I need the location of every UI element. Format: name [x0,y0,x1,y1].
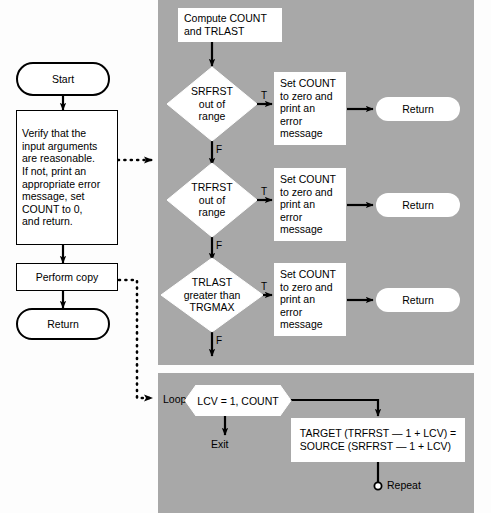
perform-copy-node[interactable]: Perform copy [16,263,118,291]
return-pellet-1[interactable]: Return [376,97,460,121]
loop-body-label: TARGET (TRFRST — 1 + LCV) = SOURCE (SRFR… [300,427,456,452]
dotted-perform-to-loop [119,280,152,398]
return-pellet-3[interactable]: Return [376,288,460,312]
flowchart-canvas: Start Verify that the input arguments ar… [0,0,491,513]
return-pellet-2[interactable]: Return [376,193,460,217]
decision-trlast-false-label: F [216,335,222,346]
exit-label: Exit [211,438,229,450]
decision-srfrst-false-label: F [216,144,222,155]
return-node[interactable]: Return [16,308,110,340]
perform-copy-label: Perform copy [36,271,98,284]
decision-srfrst[interactable]: SRFRST out of range [166,66,258,142]
loop-header-label: LCV = 1, COUNT [197,395,278,407]
decision-trlast-true-label: T [261,281,267,292]
decision-trfrst-label: TRFRST out of range [191,181,232,219]
repeat-label: Repeat [387,479,421,491]
decision-srfrst-true-label: T [261,90,267,101]
return-pellet-2-label: Return [402,199,434,211]
compute-node[interactable]: Compute COUNT and TRLAST [178,8,282,42]
start-node[interactable]: Start [16,62,110,96]
error-action-1[interactable]: Set COUNT to zero and print an error mes… [274,72,346,145]
compute-label: Compute COUNT and TRLAST [184,12,267,37]
decision-trfrst[interactable]: TRFRST out of range [166,162,258,238]
decision-trlast-label: TRLAST greater than TRGMAX [184,276,241,314]
return-pellet-1-label: Return [402,103,434,115]
decision-srfrst-label: SRFRST out of range [191,85,233,123]
loop-header-node[interactable]: LCV = 1, COUNT [184,385,292,416]
verify-label: Verify that the input arguments are reas… [22,127,100,228]
loop-body-node[interactable]: TARGET (TRFRST — 1 + LCV) = SOURCE (SRFR… [291,418,465,462]
return-label: Return [47,318,79,330]
loop-keyword-label: Loop [163,393,186,405]
decision-trfrst-true-label: T [261,186,267,197]
verify-node[interactable]: Verify that the input arguments are reas… [16,110,118,245]
decision-trlast[interactable]: TRLAST greater than TRGMAX [160,257,264,333]
return-pellet-3-label: Return [402,294,434,306]
error-action-3[interactable]: Set COUNT to zero and print an error mes… [274,263,346,336]
error-action-2[interactable]: Set COUNT to zero and print an error mes… [274,168,346,241]
error-action-3-label: Set COUNT to zero and print an error mes… [280,268,336,331]
error-action-1-label: Set COUNT to zero and print an error mes… [280,77,336,140]
error-action-2-label: Set COUNT to zero and print an error mes… [280,173,336,236]
decision-trfrst-false-label: F [216,240,222,251]
start-label: Start [52,73,74,85]
